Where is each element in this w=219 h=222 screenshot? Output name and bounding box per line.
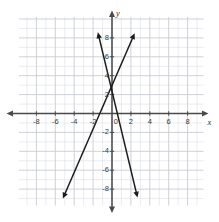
x-tick-label-2: 2 — [129, 118, 133, 126]
y-tick-label--6: -6 — [102, 166, 109, 174]
y-tick-label-6: 6 — [105, 53, 109, 61]
x-tick-label-4: 4 — [148, 118, 152, 126]
x-tick-label--6: -6 — [52, 118, 59, 126]
y-tick-label-4: 4 — [105, 72, 109, 80]
x-tick-label--2: -2 — [90, 118, 97, 126]
coordinate-plane-svg — [0, 0, 219, 222]
y-tick-label--2: -2 — [102, 129, 109, 137]
y-tick-label--4: -4 — [102, 148, 109, 156]
graph-figure: -8-6-4-224688642-2-4-6-80 x y — [0, 0, 219, 222]
x-tick-label-8: 8 — [186, 118, 190, 126]
x-tick-label--4: -4 — [71, 118, 78, 126]
origin-label: 0 — [114, 118, 118, 126]
y-tick-label-2: 2 — [105, 91, 109, 99]
y-tick-label-8: 8 — [105, 34, 109, 42]
y-axis-label: y — [116, 9, 120, 18]
x-axis-label: x — [208, 118, 212, 127]
x-tick-label-6: 6 — [167, 118, 171, 126]
y-tick-label--8: -8 — [102, 185, 109, 193]
x-tick-label--8: -8 — [33, 118, 40, 126]
